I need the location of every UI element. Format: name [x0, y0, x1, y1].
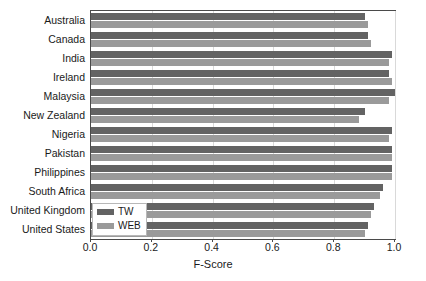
y-tick-label: New Zealand: [0, 109, 85, 121]
x-tick-label: 0.0: [83, 241, 98, 253]
x-tick-label: 0.6: [265, 241, 280, 253]
legend-label: TW: [118, 207, 134, 217]
y-tick-label: Pakistan: [0, 147, 85, 159]
y-tick-label: India: [0, 52, 85, 64]
figure: AustraliaCanadaIndiaIrelandMalaysiaNew Z…: [0, 0, 426, 281]
y-tick-label: Canada: [0, 33, 85, 45]
y-tick-label: Philippines: [0, 166, 85, 178]
y-tick-label: South Africa: [0, 185, 85, 197]
x-tick-label: 1.0: [387, 241, 402, 253]
y-axis-tick-labels: AustraliaCanadaIndiaIrelandMalaysiaNew Z…: [0, 10, 426, 238]
y-tick-label: Ireland: [0, 71, 85, 83]
y-tick-label: United States: [0, 223, 85, 235]
y-tick-label: Australia: [0, 14, 85, 26]
y-tick-label: Nigeria: [0, 128, 85, 140]
legend-entry: TW: [97, 206, 141, 218]
legend-swatch-icon: [97, 223, 114, 229]
legend: TWWEB: [92, 203, 147, 236]
legend-entry: WEB: [97, 220, 141, 232]
x-tick-label: 0.4: [204, 241, 219, 253]
x-tick-label: 0.8: [326, 241, 341, 253]
y-tick-label: Malaysia: [0, 90, 85, 102]
x-tick-label: 0.2: [143, 241, 158, 253]
legend-label: WEB: [118, 221, 141, 231]
y-tick-label: United Kingdom: [0, 204, 85, 216]
x-axis-label: F-Score: [0, 258, 426, 270]
legend-swatch-icon: [97, 209, 114, 215]
x-axis-tick-labels: 0.00.20.40.60.81.0: [90, 241, 394, 257]
